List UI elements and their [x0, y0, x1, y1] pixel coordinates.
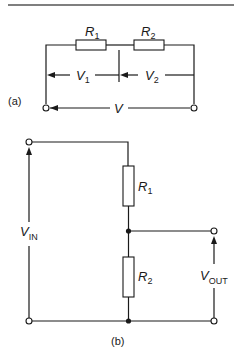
terminal-a-left	[43, 105, 49, 111]
terminal-b-in-top	[26, 139, 32, 145]
resistor-b-r2	[123, 257, 134, 297]
label-v1: V1	[76, 68, 90, 85]
terminal-b-out-top	[211, 228, 217, 234]
circuit-diagram: R1 R2 V1 V2 V (a) R1 R	[0, 0, 234, 360]
v1-arrowhead	[47, 72, 55, 78]
circuit-a: R1 R2 V1 V2 V (a)	[8, 24, 197, 116]
circuit-b: R1 R2 VIN VOUT (b)	[20, 139, 228, 347]
v-arrowhead	[50, 105, 58, 111]
label-a-r1: R1	[85, 24, 99, 41]
resistor-b-r1	[123, 166, 134, 206]
junction-b-bottom	[126, 318, 131, 323]
v2-arrowhead	[120, 72, 128, 78]
label-b-r2: R2	[138, 269, 152, 286]
label-vout: VOUT	[200, 268, 228, 286]
terminal-b-in-bottom	[26, 318, 32, 324]
label-part-a: (a)	[8, 95, 21, 107]
resistor-a-r2	[134, 40, 164, 50]
label-a-r2: R2	[141, 24, 155, 41]
wire-b-top	[32, 142, 128, 166]
label-b-r1: R1	[138, 179, 152, 196]
label-v2: V2	[145, 68, 159, 85]
vout-arrowhead	[211, 236, 217, 244]
junction-b-mid	[126, 228, 131, 233]
label-v: V	[114, 101, 124, 116]
vin-arrowhead	[26, 147, 32, 155]
label-part-b: (b)	[111, 335, 124, 347]
terminal-b-out-bottom	[211, 318, 217, 324]
resistor-a-r1	[76, 40, 106, 50]
terminal-a-right	[191, 105, 197, 111]
label-vin: VIN	[20, 224, 38, 242]
